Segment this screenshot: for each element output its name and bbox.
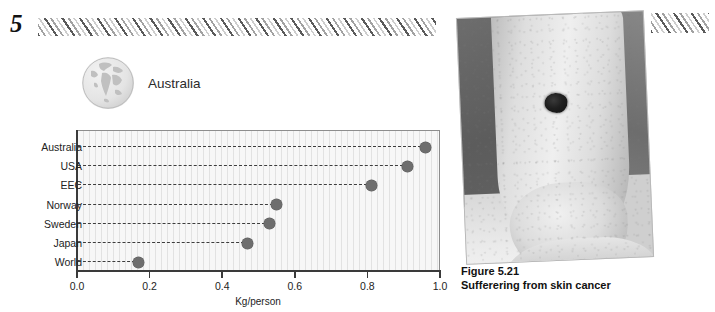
globe-icon <box>82 57 134 109</box>
x-axis-tick <box>439 272 441 278</box>
x-axis-line <box>76 270 441 272</box>
chart-row-label: Norway <box>46 198 82 212</box>
x-axis-tick-label: 0.8 <box>360 280 375 292</box>
chart-row: Australia <box>0 140 460 154</box>
chart-leader-line <box>78 204 273 205</box>
x-axis-tick <box>367 272 369 278</box>
x-axis-title: Kg/person <box>235 296 281 307</box>
figure-caption: Figure 5.21 Sufferering from skin cancer <box>461 265 711 292</box>
chart-row: World <box>0 255 460 269</box>
figure-caption-number: Figure 5.21 <box>461 265 711 279</box>
chart-row-label: Australia <box>41 140 82 154</box>
hatch-decoration-bar-right <box>651 13 709 33</box>
chart-row: EEC <box>0 178 460 192</box>
chart-leader-line <box>78 165 403 166</box>
x-axis-tick-label: 0.0 <box>70 280 85 292</box>
chart-row-label: Japan <box>53 236 82 250</box>
region-title: Australia <box>148 76 201 91</box>
chart-data-point <box>133 257 144 268</box>
chart-row: Japan <box>0 236 460 250</box>
chart-row-label: Sweden <box>44 217 82 231</box>
x-axis-tick <box>149 272 151 278</box>
lollipop-chart: AustraliaUSAEECNorwaySwedenJapanWorld 0.… <box>0 120 460 312</box>
chart-data-point <box>420 142 431 153</box>
x-axis-tick <box>221 272 223 278</box>
chart-data-point <box>242 238 253 249</box>
chart-data-point <box>271 199 282 210</box>
chart-row: Norway <box>0 198 460 212</box>
chart-data-point <box>366 180 377 191</box>
chapter-number: 5 <box>10 11 23 36</box>
x-axis-tick-label: 0.4 <box>215 280 230 292</box>
x-axis-tick-label: 0.2 <box>142 280 157 292</box>
chart-row-label: EEC <box>60 178 82 192</box>
chart-row: Sweden <box>0 217 460 231</box>
chart-leader-line <box>78 146 421 147</box>
chart-row-label: USA <box>60 159 82 173</box>
skin-texture-overlay <box>457 11 653 264</box>
chart-leader-line <box>78 184 367 185</box>
chart-row: USA <box>0 159 460 173</box>
chart-data-point <box>264 218 275 229</box>
chart-leader-line <box>78 242 244 243</box>
chart-leader-line <box>78 261 135 262</box>
skin-cancer-photo <box>456 10 654 265</box>
chart-row-label: World <box>55 255 82 269</box>
region-heading: Australia <box>82 57 201 109</box>
figure-photo-block <box>455 8 655 263</box>
x-axis-tick-label: 0.6 <box>287 280 302 292</box>
x-axis-tick <box>294 272 296 278</box>
chart-data-point <box>402 161 413 172</box>
hatch-decoration-bar <box>38 18 436 36</box>
x-axis-tick <box>76 272 78 278</box>
x-axis-tick-label: 1.0 <box>433 280 448 292</box>
chart-leader-line <box>78 223 265 224</box>
figure-caption-text: Sufferering from skin cancer <box>461 279 711 293</box>
